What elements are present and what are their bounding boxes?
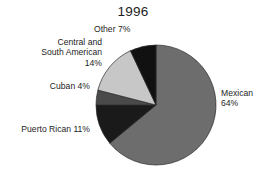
slice-label-other: Other 7% (94, 24, 130, 34)
slice-label-central-and-south-american: Central and South American 14% (16, 37, 102, 68)
pie-chart-figure: 1996 Other 7% Central and South American… (0, 0, 266, 181)
slice-label-mexican: Mexican 64% (221, 88, 265, 109)
pie-slices-group (96, 45, 216, 165)
slice-label-cuban: Cuban 4% (24, 81, 90, 91)
slice-label-puerto-rican: Puerto Rican 11% (4, 124, 90, 134)
